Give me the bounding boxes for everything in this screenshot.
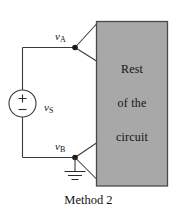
node-label-vb: vB xyxy=(55,137,65,154)
connector-node-b-upper xyxy=(75,143,97,158)
node-label-vb-subscript: B xyxy=(60,145,65,154)
block-text-line-3: circuit xyxy=(96,130,168,145)
node-label-va: vA xyxy=(55,27,66,44)
figure-caption: Method 2 xyxy=(0,193,177,208)
connector-node-a-upper xyxy=(75,24,97,48)
block-text-line-1: Rest xyxy=(96,62,168,77)
voltage-source-circle xyxy=(9,90,36,117)
connector-node-a-lower xyxy=(75,48,97,62)
node-label-va-subscript: A xyxy=(60,35,66,44)
source-label-subscript: S xyxy=(49,106,53,115)
circuit-figure: vA vB vS Rest of the circuit Method 2 xyxy=(0,0,177,214)
ground-symbol xyxy=(65,172,86,180)
source-label-vs: vS xyxy=(44,98,53,115)
node-dot-a xyxy=(72,45,78,51)
block-text-line-2: of the xyxy=(96,96,168,111)
